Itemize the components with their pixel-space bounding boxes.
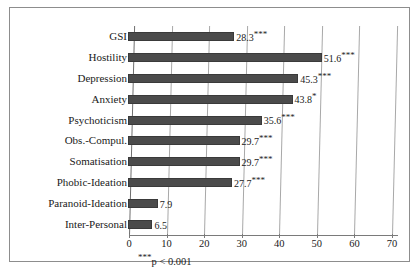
bar-value-depression: 45.3*** [300, 72, 331, 85]
significance-somatisation: *** [259, 154, 273, 164]
bar-inter-personal [128, 220, 152, 229]
category-label-anxiety: Anxiety [0, 94, 127, 105]
value-text-paranoid-ideation: 7.9 [160, 199, 173, 210]
footnote-text: p < 0.001 [152, 256, 192, 267]
value-text-hostility: 51.6 [324, 53, 342, 64]
table-row: Phobic-Ideation 27.7*** [10, 172, 411, 193]
bar-container-paranoid-ideation: 7.9 [128, 193, 172, 214]
category-label-hostility: Hostility [0, 52, 127, 63]
bar-container-anxiety: 43.8* [128, 89, 317, 110]
bar-phobic-ideation [128, 178, 232, 187]
bar-container-psychoticism: 35.6*** [128, 110, 295, 131]
x-axis-baseline [129, 235, 398, 236]
bar-container-gsi: 28.3*** [128, 26, 267, 47]
significance-phobic-ideation: *** [252, 175, 266, 185]
bar-obs-compul [128, 136, 240, 145]
bar-paranoid-ideation [128, 199, 158, 208]
significance-obs-compul: *** [259, 133, 273, 143]
bar-gsi [128, 32, 234, 41]
bar-container-depression: 45.3*** [128, 68, 331, 89]
bar-psychoticism [128, 116, 262, 125]
bar-container-somatisation: 29.7*** [128, 151, 273, 172]
bar-depression [128, 74, 298, 83]
bar-container-hostility: 51.6*** [128, 47, 355, 68]
bar-rows: GSI 28.3*** Hostility 51.6*** Depression… [10, 26, 411, 235]
category-label-depression: Depression [0, 73, 127, 84]
bar-value-anxiety: 43.8* [295, 92, 317, 105]
value-text-inter-personal: 6.5 [154, 220, 167, 231]
value-text-anxiety: 43.8 [295, 95, 313, 106]
footnote-stars: *** [138, 252, 152, 262]
bar-container-phobic-ideation: 27.7*** [128, 172, 265, 193]
significance-gsi: *** [254, 29, 268, 39]
bar-value-obs-compul: 29.7*** [242, 134, 273, 147]
bar-value-hostility: 51.6*** [324, 51, 355, 64]
x-tick-label-70: 70 [387, 239, 398, 250]
x-tick-label-40: 40 [274, 239, 285, 250]
bar-value-gsi: 28.3*** [236, 30, 267, 43]
x-tick-label-50: 50 [312, 239, 323, 250]
x-tick-label-10: 10 [161, 239, 172, 250]
x-tick-label-30: 30 [236, 239, 247, 250]
significance-footnote: ***p < 0.001 [138, 253, 192, 267]
x-tick-label-60: 60 [349, 239, 360, 250]
chart-frame: GSI 28.3*** Hostility 51.6*** Depression… [9, 7, 410, 262]
category-label-paranoid-ideation: Paranoid-Ideation [0, 198, 127, 209]
bar-somatisation [128, 157, 240, 166]
bar-value-phobic-ideation: 27.7*** [234, 176, 265, 189]
value-text-somatisation: 29.7 [242, 157, 260, 168]
category-label-inter-personal: Inter-Personal [0, 219, 127, 230]
table-row: Anxiety 43.8* [10, 89, 411, 110]
value-text-phobic-ideation: 27.7 [234, 178, 252, 189]
bar-hostility [128, 53, 322, 62]
significance-anxiety: * [312, 91, 317, 101]
x-axis: 0 10 20 30 40 50 60 70 [129, 237, 392, 253]
category-label-gsi: GSI [0, 31, 127, 42]
category-label-obs-compul: Obs.-Compul. [0, 135, 127, 146]
category-label-phobic-ideation: Phobic-Ideation [0, 177, 127, 188]
x-tick-label-0: 0 [126, 239, 131, 250]
table-row: Hostility 51.6*** [10, 47, 411, 68]
value-text-gsi: 28.3 [236, 32, 254, 43]
bar-value-paranoid-ideation: 7.9 [160, 197, 173, 210]
significance-hostility: *** [341, 50, 355, 60]
bar-value-somatisation: 29.7*** [242, 155, 273, 168]
significance-psychoticism: *** [281, 112, 295, 122]
bar-container-inter-personal: 6.5 [128, 214, 167, 235]
table-row: Psychoticism 35.6*** [10, 110, 411, 131]
value-text-psychoticism: 35.6 [264, 116, 282, 127]
table-row: Paranoid-Ideation 7.9 [10, 193, 411, 214]
value-text-obs-compul: 29.7 [242, 137, 260, 148]
category-label-psychoticism: Psychoticism [0, 115, 127, 126]
table-row: Inter-Personal 6.5 [10, 214, 411, 235]
bar-anxiety [128, 95, 293, 104]
table-row: Depression 45.3*** [10, 68, 411, 89]
table-row: GSI 28.3*** [10, 26, 411, 47]
significance-depression: *** [318, 71, 332, 81]
x-tick-label-20: 20 [199, 239, 210, 250]
bar-container-obs-compul: 29.7*** [128, 130, 273, 151]
category-label-somatisation: Somatisation [0, 156, 127, 167]
table-row: Obs.-Compul. 29.7*** [10, 130, 411, 151]
bar-value-psychoticism: 35.6*** [264, 113, 295, 126]
value-text-depression: 45.3 [300, 74, 318, 85]
table-row: Somatisation 29.7*** [10, 151, 411, 172]
bar-value-inter-personal: 6.5 [154, 218, 167, 231]
